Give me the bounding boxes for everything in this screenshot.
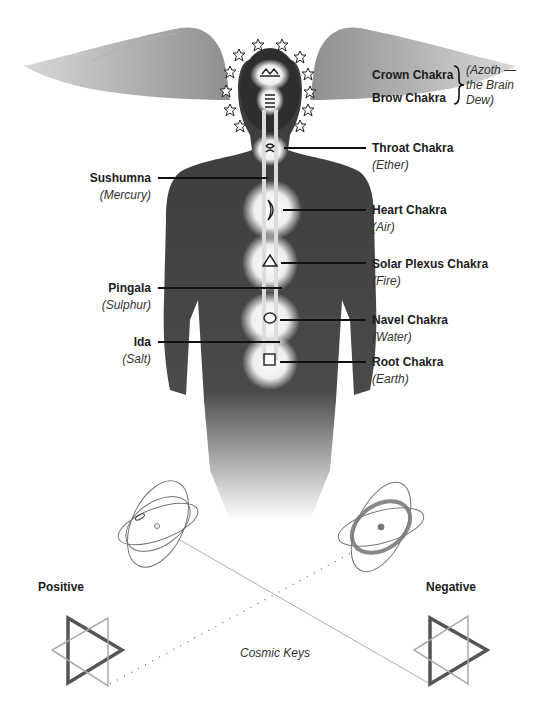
label-positive: Positive [38,580,84,594]
star-icon [233,49,245,61]
element-fire: (Fire) [372,274,401,288]
positive-atom-icon [113,471,203,576]
element-earth: (Earth) [372,372,409,386]
left-wing [24,27,230,100]
element-air: (Air) [372,220,395,234]
star-icon [294,51,306,63]
dotted-connector-line [110,548,360,684]
star-icon [252,39,264,51]
star-icon [276,39,288,51]
label-ida: Ida [60,335,151,349]
negative-hexagram-icon [414,616,487,684]
label-solar-plexus-chakra: Solar Plexus Chakra [372,257,488,271]
star-icon [302,104,314,116]
label-navel-chakra: Navel Chakra [372,313,448,327]
element-mercury: (Mercury) [60,188,151,202]
label-throat-chakra: Throat Chakra [372,141,453,155]
azoth-note-line-1: (Azoth — [466,63,516,77]
azoth-note-line-2: the Brain [466,78,514,92]
label-pingala: Pingala [60,281,151,295]
element-ether: (Ether) [372,158,409,172]
element-water: (Water) [372,330,412,344]
label-brow-chakra: Brow Chakra [372,91,446,105]
label-sushumna: Sushumna [60,171,151,185]
solid-connector-line [180,540,430,684]
label-negative: Negative [426,580,476,594]
caption-cosmic-keys: Cosmic Keys [240,646,310,660]
star-icon [302,68,314,80]
star-icon [224,104,236,116]
positive-hexagram-icon [52,618,122,686]
label-root-chakra: Root Chakra [372,355,443,369]
negative-atom-icon [334,473,427,580]
element-sulphur: (Sulphur) [60,298,151,312]
element-salt: (Salt) [60,352,151,366]
label-heart-chakra: Heart Chakra [372,203,447,217]
azoth-note-line-3: Dew) [466,93,494,107]
label-crown-chakra: Crown Chakra [372,68,453,82]
